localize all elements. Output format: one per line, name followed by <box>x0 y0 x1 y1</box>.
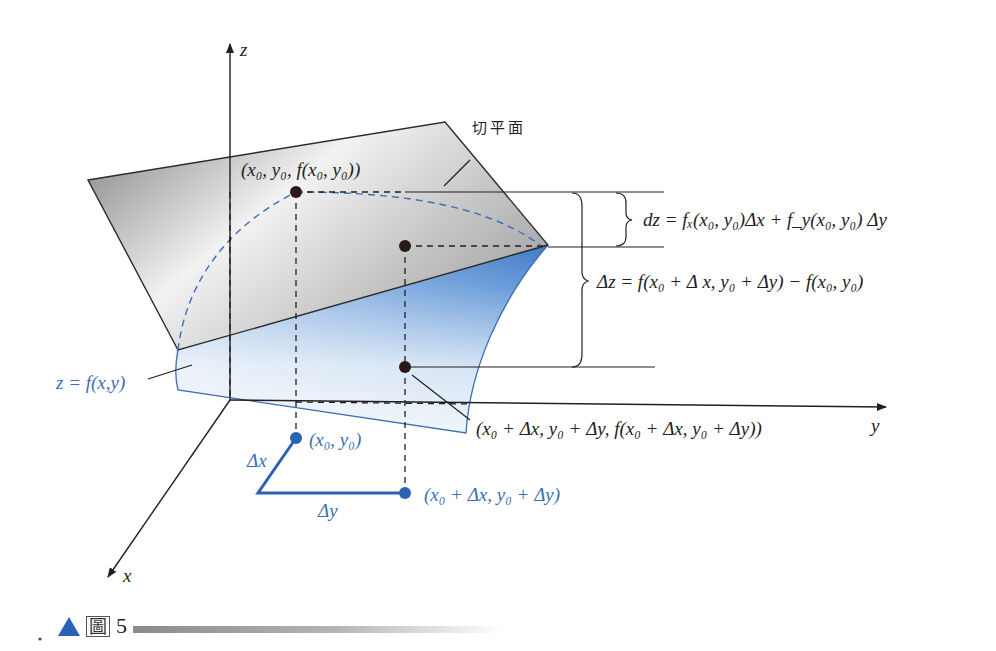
speck <box>38 637 41 640</box>
point-p0-label: (x₀, y₀, f(x₀, y₀)) <box>241 160 360 179</box>
diagram-canvas <box>0 0 996 651</box>
z-axis-label: z <box>240 40 247 59</box>
projection-p0-label: (x₀, y₀) <box>309 430 361 449</box>
x-axis <box>108 400 230 577</box>
point-p0 <box>290 186 302 198</box>
projection-point-p1 <box>399 487 411 499</box>
tangent-plane-label: 切平面 <box>472 116 526 137</box>
dz-formula: dz = fₓ(x₀, y₀)Δx + f_y(x₀, y₀) Δy <box>643 210 887 229</box>
figure-caption: 圖 5 <box>58 613 127 639</box>
delta-z-formula: Δz = f(x₀ + Δ x, y₀ + Δy) − f(x₀, y₀) <box>597 272 863 291</box>
point-tangent <box>399 240 411 252</box>
delta-y-label: Δy <box>318 501 338 520</box>
caption-prefix: 圖 <box>86 616 110 637</box>
point-p1 <box>399 361 411 373</box>
point-p1-label: (x₀ + Δx, y₀ + Δy, f(x₀ + Δx, y₀ + Δy)) <box>476 419 762 438</box>
delta-z-brace <box>572 193 588 367</box>
dz-brace <box>616 193 632 246</box>
caption-number: 5 <box>116 613 127 639</box>
triangle-icon <box>58 617 80 636</box>
delta-x-label: Δx <box>247 451 267 470</box>
caption-underline-bar <box>133 626 503 633</box>
surface-label: z = f(x,y) <box>56 373 125 392</box>
projection-p1-label: (x₀ + Δx, y₀ + Δy) <box>424 485 560 504</box>
x-axis-label: x <box>123 566 131 585</box>
projection-point-p0 <box>290 432 302 444</box>
y-axis-label: y <box>871 416 879 435</box>
